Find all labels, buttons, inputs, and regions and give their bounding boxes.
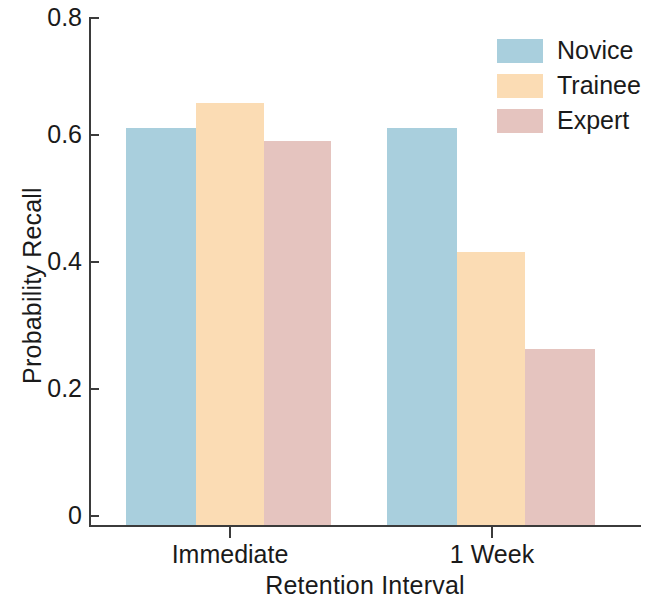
legend-swatch-expert: [497, 109, 543, 133]
legend-swatch-trainee: [497, 74, 543, 98]
legend-label-novice: Novice: [557, 38, 633, 63]
x-axis-tick-label: 1 Week: [382, 540, 602, 569]
bar-novice-immediate: [126, 128, 196, 525]
y-axis-tick-group: 0.8 0.6 0.4 0.2 0: [12, 0, 82, 598]
bar-expert-immediate: [264, 141, 331, 525]
x-axis-tick-mark: [491, 527, 493, 538]
y-axis-tick-label: 0.6: [20, 122, 82, 147]
legend-label-trainee: Trainee: [557, 73, 641, 98]
x-axis-tick-mark: [229, 527, 231, 538]
x-axis-line: [89, 525, 641, 527]
y-axis-tick-label: 0.8: [20, 5, 82, 30]
legend-item-expert: Expert: [497, 103, 645, 138]
legend: Novice Trainee Expert: [497, 33, 645, 138]
y-axis-tick-label: 0.2: [20, 376, 82, 401]
legend-item-novice: Novice: [497, 33, 645, 68]
legend-swatch-novice: [497, 39, 543, 63]
bar-novice-1week: [387, 128, 457, 525]
bar-trainee-immediate: [196, 103, 264, 525]
legend-label-expert: Expert: [557, 108, 629, 133]
bar-expert-1week: [525, 349, 595, 525]
y-axis-tick-label: 0: [20, 503, 82, 528]
y-axis-tick-label: 0.4: [20, 249, 82, 274]
bar-chart: Probability Recall 0.8 0.6 0.4 0.2 0 Imm…: [0, 0, 645, 598]
legend-item-trainee: Trainee: [497, 68, 645, 103]
x-axis-tick-label: Immediate: [120, 540, 340, 569]
bar-trainee-1week: [457, 252, 525, 525]
x-axis-title: Retention Interval: [89, 571, 641, 598]
